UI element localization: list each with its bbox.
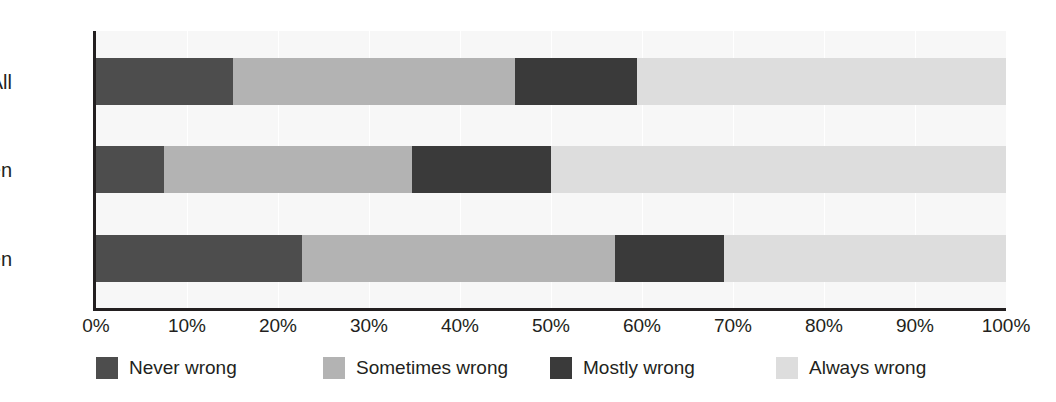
legend-swatch-icon [96,357,118,379]
x-tick-label: 30% [329,315,409,337]
stacked-bar-chart: AllWomenMen 0%10%20%30%40%50%60%70%80%90… [0,0,1056,402]
legend-swatch-icon [550,357,572,379]
bar-segment [637,58,1006,105]
x-tick-label: 10% [147,315,227,337]
x-tick-label: 70% [693,315,773,337]
legend-label: Sometimes wrong [356,357,508,379]
chart-legend: Never wrongSometimes wrongMostly wrongAl… [96,355,1006,387]
x-tick-label: 90% [875,315,955,337]
bar-segment [233,58,515,105]
legend-item[interactable]: Never wrong [96,355,237,381]
bar-row [96,235,1006,282]
bar-segment [164,146,412,193]
x-tick-label: 0% [56,315,136,337]
x-tick-label: 80% [784,315,864,337]
bar-segment [551,146,1006,193]
category-label-men: Men [0,249,12,269]
plot-area [96,31,1006,308]
y-axis-line [93,31,96,309]
x-tick-label: 50% [511,315,591,337]
bar-segment [96,58,233,105]
legend-item[interactable]: Sometimes wrong [323,355,508,381]
chart-title [8,0,708,7]
bar-segment [615,235,724,282]
bar-segment [412,146,551,193]
bar-segment [724,235,1006,282]
bar-segment [515,58,638,105]
category-label-all: All [0,72,12,92]
bar-segment [96,146,164,193]
legend-label: Always wrong [809,357,926,379]
x-tick-label: 20% [238,315,318,337]
x-tick-label: 100% [966,315,1046,337]
bar-row [96,146,1006,193]
x-axis-line [93,308,1006,311]
legend-swatch-icon [323,357,345,379]
bar-row [96,58,1006,105]
x-tick-label: 40% [420,315,500,337]
legend-swatch-icon [776,357,798,379]
legend-item[interactable]: Always wrong [776,355,926,381]
bar-segment [96,235,302,282]
legend-label: Mostly wrong [583,357,695,379]
category-label-women: Women [0,160,12,180]
gridline [1006,31,1007,308]
x-tick-label: 60% [602,315,682,337]
legend-label: Never wrong [129,357,237,379]
legend-item[interactable]: Mostly wrong [550,355,695,381]
bar-segment [302,235,615,282]
